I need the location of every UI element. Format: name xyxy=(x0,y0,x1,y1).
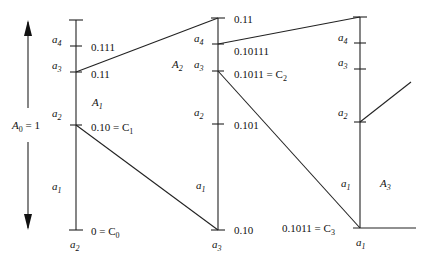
value-011: 0.11 xyxy=(91,68,110,80)
symbol-a1-col3: a1 xyxy=(341,177,351,192)
value-010111: 0.10111 xyxy=(234,45,269,57)
value-c0: 0 = C0 xyxy=(91,225,120,240)
arrow-down-icon xyxy=(24,214,32,230)
area-label-a2: A2 xyxy=(171,58,183,73)
a0-label: A0 = 1 xyxy=(11,119,40,134)
symbol-a2-col3: a2 xyxy=(338,106,348,121)
symbol-a3-col3: a3 xyxy=(338,56,348,71)
arithmetic-coding-diagram: A0 = 1 a4 a3 a2 a1 a2 0.111 0.11 0.10 = … xyxy=(0,0,429,265)
symbol-a3-col1: a3 xyxy=(52,59,62,74)
value-011-col2: 0.11 xyxy=(234,13,253,25)
value-0101: 0.101 xyxy=(234,119,259,131)
connector-lower-2 xyxy=(218,71,360,228)
connector-upper-3 xyxy=(360,82,411,122)
value-c3: 0.1011 = C3 xyxy=(282,222,335,237)
interval-column-2 xyxy=(211,18,225,230)
value-c1: 0.10 = C1 xyxy=(91,121,133,136)
area-label-a1: A1 xyxy=(91,96,103,111)
symbol-a2-col1: a2 xyxy=(52,107,62,122)
bottom-symbol-col3: a1 xyxy=(356,236,366,251)
interval-column-3 xyxy=(353,17,416,228)
symbol-a3-col2: a3 xyxy=(194,58,204,73)
value-010: 0.10 xyxy=(234,224,254,236)
symbol-a4-col1: a4 xyxy=(52,33,62,48)
symbol-a1-col1: a1 xyxy=(52,180,62,195)
area-label-a3: A3 xyxy=(379,177,391,192)
symbol-a1-col2: a1 xyxy=(196,179,206,194)
arrow-up-icon xyxy=(24,20,32,36)
bottom-symbol-col1: a2 xyxy=(70,238,80,253)
symbol-a2-col2: a2 xyxy=(194,106,204,121)
symbol-a4-col3: a4 xyxy=(338,31,348,46)
value-c2: 0.1011 = C2 xyxy=(234,68,287,83)
bottom-symbol-col2: a3 xyxy=(212,238,222,253)
symbol-a4-col2: a4 xyxy=(194,32,204,47)
value-0111: 0.111 xyxy=(91,41,115,53)
connector-lower-1 xyxy=(76,125,218,230)
